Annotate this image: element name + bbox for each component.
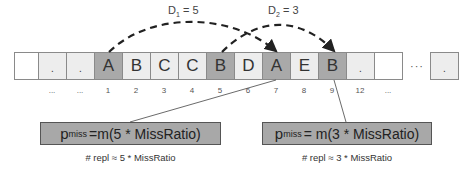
cell-label: C xyxy=(158,56,170,76)
cell-label: . xyxy=(79,63,82,74)
trace-cell: . xyxy=(66,52,95,80)
trace-cell: E xyxy=(290,52,319,80)
distance-label-d1: D1 = 5 xyxy=(168,4,199,18)
formula-subscript: miss xyxy=(283,129,302,139)
cell-index: 1 xyxy=(94,86,122,95)
distance-subscript: 1 xyxy=(176,11,180,18)
cell-index: ... xyxy=(38,86,66,95)
cell-label: . xyxy=(443,63,446,74)
distance-subscript: 2 xyxy=(276,11,280,18)
trace-cell xyxy=(14,52,39,80)
reuse-distance-diagram: D1 = 5 D2 = 3 . . A B C C B D A E B . ··… xyxy=(0,0,471,171)
distance-label-d2: D2 = 3 xyxy=(268,4,299,18)
trace-cell: . xyxy=(346,52,375,80)
trace-cell: D xyxy=(234,52,263,80)
tail-trace-cell: . xyxy=(430,52,459,80)
miss-probability-box-d1: pmiss=m(5 * MissRatio) xyxy=(40,122,221,145)
trace-cell xyxy=(374,52,403,80)
cell-label: . xyxy=(359,63,362,74)
formula-p: p xyxy=(275,125,283,142)
cell-index: ... xyxy=(66,86,94,95)
trace-cell: . xyxy=(38,52,67,80)
cell-index: 3 xyxy=(150,86,178,95)
cell-index: 8 xyxy=(290,86,318,95)
cell-label: D xyxy=(242,56,254,76)
cell-index: 2 xyxy=(122,86,150,95)
reuse-arrow-d1 xyxy=(109,22,276,52)
distance-symbol: D xyxy=(268,4,276,16)
equals-sign: = xyxy=(183,4,189,16)
reuse-arrow-d2 xyxy=(222,25,334,52)
trace-cell: B xyxy=(122,52,151,80)
formula-expression: = m(3 * MissRatio) xyxy=(304,126,420,142)
cell-index: 7 xyxy=(262,86,290,95)
formula-expression: =m(5 * MissRatio) xyxy=(89,126,201,142)
cell-index: 5 xyxy=(206,86,234,95)
cell-label: E xyxy=(299,56,310,76)
formula-p: p xyxy=(60,125,68,142)
cell-label: A xyxy=(271,56,282,76)
cell-index: ... xyxy=(374,86,402,95)
trace-cell: C xyxy=(178,52,207,80)
formula-subscript: miss xyxy=(69,129,88,139)
cell-index: 12 xyxy=(346,86,374,95)
trace-cell-highlighted: B xyxy=(318,52,347,80)
cell-index: 4 xyxy=(178,86,206,95)
trace-cell: C xyxy=(150,52,179,80)
trace-cell-highlighted: A xyxy=(262,52,291,80)
trace-cell-highlighted: B xyxy=(206,52,235,80)
cell-label: A xyxy=(103,56,114,76)
distance-value: 3 xyxy=(292,4,298,16)
miss-probability-box-d2: pmiss= m(3 * MissRatio) xyxy=(262,122,432,145)
cell-label: C xyxy=(186,56,198,76)
cell-label: . xyxy=(51,63,54,74)
replacement-estimate-d2: # repl ≈ 3 * MissRatio xyxy=(262,152,432,163)
cell-index: 9 xyxy=(318,86,346,95)
distance-symbol: D xyxy=(168,4,176,16)
cell-label: B xyxy=(131,56,142,76)
equals-sign: = xyxy=(283,4,289,16)
trace-cell-highlighted: A xyxy=(94,52,123,80)
cell-label: B xyxy=(215,56,226,76)
cell-label: B xyxy=(327,56,338,76)
gap-ellipsis: ··· xyxy=(404,60,430,72)
replacement-estimate-d1: # repl ≈ 5 * MissRatio xyxy=(40,152,221,163)
cell-index: 6 xyxy=(234,86,262,95)
distance-value: 5 xyxy=(192,4,198,16)
